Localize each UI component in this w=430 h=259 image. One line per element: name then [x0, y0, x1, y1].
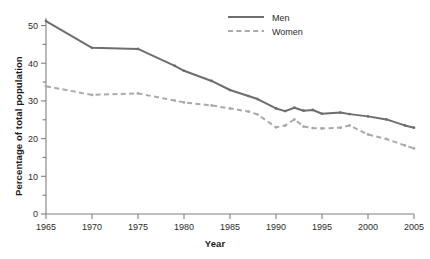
- data-point-men: [311, 109, 314, 112]
- x-tick-label: 1970: [82, 222, 102, 232]
- data-point-men: [247, 95, 250, 98]
- data-point-men: [413, 126, 416, 129]
- data-point-women: [229, 107, 232, 110]
- data-point-women: [367, 133, 370, 136]
- data-point-men: [45, 20, 48, 23]
- data-point-men: [210, 80, 213, 83]
- data-point-men: [403, 124, 406, 127]
- data-point-women: [256, 113, 259, 116]
- y-tick-label: 30: [28, 96, 38, 106]
- x-tick-label: 2005: [404, 222, 424, 232]
- data-point-men: [173, 65, 176, 68]
- y-tick-label: 0: [33, 209, 38, 219]
- data-point-men: [385, 118, 388, 121]
- data-point-men: [284, 110, 287, 113]
- data-point-men: [367, 115, 370, 118]
- data-point-women: [284, 124, 287, 127]
- data-point-men: [256, 98, 259, 101]
- data-point-men: [137, 48, 140, 51]
- legend-label: Women: [272, 27, 303, 37]
- data-point-women: [321, 127, 324, 130]
- data-point-women: [173, 99, 176, 102]
- data-point-men: [275, 107, 278, 110]
- x-tick-label: 1980: [174, 222, 194, 232]
- data-point-men: [348, 113, 351, 116]
- data-point-women: [210, 104, 213, 107]
- data-point-men: [91, 46, 94, 49]
- legend-label: Men: [272, 13, 290, 23]
- data-point-women: [403, 144, 406, 147]
- data-point-women: [311, 127, 314, 130]
- y-tick-label: 10: [28, 172, 38, 182]
- y-tick-label: 40: [28, 59, 38, 69]
- data-point-men: [321, 112, 324, 115]
- y-tick-label: 20: [28, 134, 38, 144]
- data-point-women: [339, 126, 342, 129]
- x-tick-label: 1995: [312, 222, 332, 232]
- y-tick-label: 50: [28, 21, 38, 31]
- data-point-women: [385, 138, 388, 141]
- series-line-men: [46, 21, 414, 128]
- x-tick-label: 1990: [266, 222, 286, 232]
- series-line-women: [46, 86, 414, 148]
- data-point-women: [348, 124, 351, 127]
- x-tick-label: 1975: [128, 222, 148, 232]
- chart-figure: 0102030405019651970197519801985199019952…: [0, 0, 430, 259]
- data-point-women: [247, 110, 250, 113]
- data-point-men: [293, 106, 296, 109]
- data-point-men: [339, 111, 342, 114]
- data-point-women: [91, 94, 94, 97]
- data-point-women: [275, 126, 278, 129]
- y-axis-title: Percentage of total population: [13, 56, 24, 196]
- data-point-women: [293, 118, 296, 121]
- data-point-men: [302, 109, 305, 112]
- x-tick-label: 2000: [358, 222, 378, 232]
- data-point-women: [413, 147, 416, 150]
- x-axis-title: Year: [0, 238, 430, 249]
- line-chart-plot: 0102030405019651970197519801985199019952…: [0, 0, 430, 259]
- data-point-men: [183, 69, 186, 72]
- x-tick-label: 1965: [36, 222, 56, 232]
- data-point-men: [229, 89, 232, 92]
- data-point-women: [183, 101, 186, 104]
- data-point-women: [45, 85, 48, 88]
- data-point-women: [137, 92, 140, 95]
- data-point-women: [302, 125, 305, 128]
- x-tick-label: 1985: [220, 222, 240, 232]
